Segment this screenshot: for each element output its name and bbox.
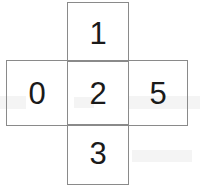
net-cell-top: 1 bbox=[67, 2, 129, 62]
net-cell-center-label: 2 bbox=[89, 78, 106, 109]
net-cell-left: 0 bbox=[6, 60, 68, 126]
net-cell-center: 2 bbox=[67, 60, 129, 126]
net-cell-top-label: 1 bbox=[89, 18, 106, 49]
net-cell-right: 5 bbox=[128, 60, 188, 126]
net-cell-bottom: 3 bbox=[67, 124, 129, 185]
cube-net-figure: 1 0 2 5 3 bbox=[0, 0, 200, 191]
net-cell-bottom-label: 3 bbox=[89, 138, 106, 169]
net-cell-left-label: 0 bbox=[28, 78, 45, 109]
net-cell-right-label: 5 bbox=[149, 78, 166, 109]
scan-artifact bbox=[132, 150, 192, 162]
